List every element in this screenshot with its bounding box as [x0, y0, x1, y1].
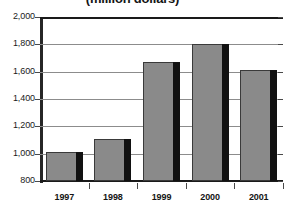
y-axis-label: 1,400 [0, 93, 35, 103]
x-axis-tick [186, 183, 187, 189]
y-axis-tick-right [278, 17, 283, 18]
bar-face [46, 152, 76, 181]
bar-1997 [46, 152, 83, 181]
y-axis-tick [35, 126, 40, 127]
bar-face [143, 62, 173, 181]
y-axis-label: 800 [0, 175, 35, 185]
bar-face [240, 70, 270, 181]
y-axis-tick [35, 72, 40, 73]
bar-side-shadow [76, 152, 83, 181]
y-axis-tick-right [278, 99, 283, 100]
chart-title: (million dollars) [0, 0, 287, 6]
x-axis-tick [137, 183, 138, 189]
bar-side-shadow [173, 62, 180, 181]
y-axis-label: 1,800 [0, 38, 35, 48]
y-axis-tick-right [278, 72, 283, 73]
bar-face [192, 44, 222, 181]
bar-2000 [192, 44, 229, 181]
bar-face [94, 139, 124, 181]
x-axis-label-2001: 2001 [229, 192, 287, 202]
plot-area [40, 17, 283, 181]
x-axis-tick [89, 183, 90, 189]
y-axis-tick [35, 17, 40, 18]
y-axis-tick-right [278, 181, 283, 182]
y-axis-tick [35, 99, 40, 100]
y-axis-tick-right [278, 44, 283, 45]
bar-chart: (million dollars) 8001,0001,2001,4001,60… [0, 0, 287, 220]
y-axis-label: 1,600 [0, 66, 35, 76]
bar-side-shadow [124, 139, 131, 181]
gridline [40, 17, 283, 19]
y-axis-label: 1,200 [0, 120, 35, 130]
y-axis-label: 2,000 [0, 11, 35, 21]
y-axis-tick [35, 154, 40, 155]
bar-side-shadow [270, 70, 277, 181]
bar-2001 [240, 70, 277, 181]
y-axis-tick-right [278, 154, 283, 155]
y-axis-label: 1,000 [0, 148, 35, 158]
bar-1999 [143, 62, 180, 181]
gridline [40, 44, 283, 45]
chart-title-clip: (million dollars) [0, 0, 287, 12]
y-axis-tick-right [278, 126, 283, 127]
x-axis-tick [283, 183, 284, 189]
bar-side-shadow [222, 44, 229, 181]
y-axis-tick [35, 44, 40, 45]
bar-1998 [94, 139, 131, 181]
x-axis-tick [234, 183, 235, 189]
y-axis-tick [35, 181, 40, 182]
